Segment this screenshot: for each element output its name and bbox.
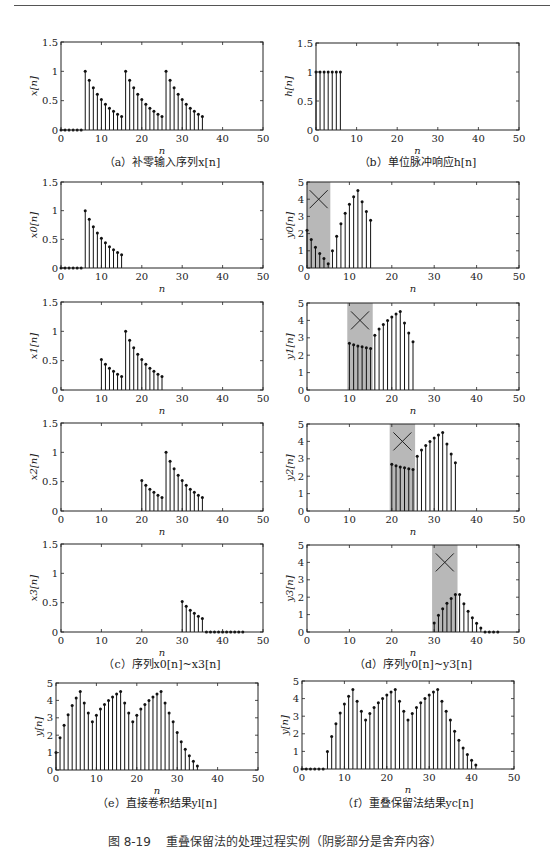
svg-text:x2[n]: x2[n]: [28, 454, 39, 480]
stems: [60, 209, 124, 269]
svg-text:30: 30: [431, 133, 444, 144]
svg-text:30: 30: [176, 271, 189, 282]
stems: [181, 600, 245, 634]
svg-text:50: 50: [257, 393, 270, 404]
svg-text:30: 30: [428, 635, 441, 646]
svg-text:3: 3: [298, 332, 304, 343]
svg-text:3: 3: [298, 453, 304, 464]
svg-text:2: 2: [293, 728, 299, 739]
svg-text:20: 20: [385, 635, 398, 646]
svg-text:1.5: 1.5: [42, 418, 58, 429]
svg-text:1: 1: [298, 367, 304, 378]
svg-text:1.5: 1.5: [42, 539, 58, 550]
svg-text:0.5: 0.5: [42, 476, 58, 487]
svg-text:40: 40: [211, 773, 224, 784]
discard-region: [432, 545, 457, 632]
svg-text:x[n]: x[n]: [28, 76, 39, 96]
caption-e: （e）直接卷积结果yl[n]: [56, 794, 258, 810]
svg-text:0: 0: [299, 772, 305, 783]
svg-text:4: 4: [298, 557, 304, 568]
svg-text:20: 20: [130, 773, 143, 784]
svg-text:30: 30: [176, 635, 189, 646]
svg-text:40: 40: [472, 133, 485, 144]
stem-plot-e: 01020304050012345ny[n]: [56, 683, 258, 770]
svg-text:0.5: 0.5: [42, 234, 58, 245]
svg-text:10: 10: [343, 514, 356, 525]
svg-text:50: 50: [513, 393, 526, 404]
caption-d: （d）序列y0[n]~y3[n]: [307, 655, 519, 671]
figure-caption: 图 8-19 重叠保留法的处理过程实例（阴影部分是舍弃内容）: [0, 832, 550, 849]
svg-text:40: 40: [216, 514, 229, 525]
stem-plot-y1: 01020304050012345ny1[n]: [307, 303, 519, 390]
svg-text:30: 30: [176, 133, 189, 144]
svg-text:0.5: 0.5: [42, 597, 58, 608]
svg-text:n: n: [410, 526, 416, 537]
svg-text:0: 0: [58, 635, 64, 646]
svg-text:50: 50: [513, 271, 526, 282]
svg-text:y[n]: y[n]: [33, 716, 44, 737]
svg-text:y0[n]: y0[n]: [284, 212, 295, 239]
svg-text:0.5: 0.5: [42, 95, 58, 106]
svg-text:h[n]: h[n]: [283, 76, 294, 97]
axes-frame: [307, 545, 519, 632]
svg-text:50: 50: [257, 271, 270, 282]
stems: [100, 330, 164, 390]
svg-text:30: 30: [428, 271, 441, 282]
svg-text:4: 4: [298, 194, 304, 205]
svg-text:20: 20: [135, 514, 148, 525]
svg-text:1.5: 1.5: [42, 37, 58, 48]
svg-text:20: 20: [385, 393, 398, 404]
svg-text:40: 40: [470, 393, 483, 404]
svg-text:2: 2: [298, 592, 304, 603]
svg-text:0: 0: [304, 635, 310, 646]
axes-frame: [307, 182, 519, 268]
svg-text:40: 40: [216, 271, 229, 282]
axes-frame: [61, 544, 263, 632]
svg-text:y3[n]: y3[n]: [284, 575, 295, 602]
svg-text:x0[n]: x0[n]: [28, 212, 39, 238]
svg-text:n: n: [159, 405, 165, 416]
svg-text:20: 20: [135, 133, 148, 144]
svg-text:0: 0: [52, 125, 58, 136]
svg-text:2: 2: [47, 730, 53, 741]
svg-text:4: 4: [293, 693, 299, 704]
svg-text:10: 10: [95, 635, 108, 646]
caption-f: （f）重叠保留法结果yc[n]: [302, 794, 514, 810]
svg-text:0: 0: [293, 764, 299, 775]
svg-text:10: 10: [343, 393, 356, 404]
svg-text:0: 0: [52, 627, 58, 638]
svg-text:0: 0: [52, 506, 58, 517]
svg-text:1: 1: [307, 67, 313, 78]
stem-plot-f: 01020304050012345ny[n]: [302, 681, 514, 769]
svg-text:10: 10: [95, 271, 108, 282]
svg-text:0: 0: [58, 271, 64, 282]
stems: [315, 71, 342, 131]
svg-text:10: 10: [90, 773, 103, 784]
svg-text:0: 0: [298, 627, 304, 638]
svg-text:4: 4: [298, 315, 304, 326]
svg-text:50: 50: [252, 773, 265, 784]
svg-text:0.5: 0.5: [42, 355, 58, 366]
svg-text:30: 30: [423, 772, 436, 783]
svg-text:1: 1: [52, 568, 58, 579]
svg-text:10: 10: [343, 635, 356, 646]
svg-text:1: 1: [298, 609, 304, 620]
svg-text:40: 40: [470, 271, 483, 282]
svg-text:5: 5: [293, 676, 299, 687]
discard-region: [347, 303, 372, 390]
discard-region: [390, 424, 415, 511]
svg-text:40: 40: [216, 393, 229, 404]
svg-text:50: 50: [257, 514, 270, 525]
stems: [55, 690, 199, 770]
svg-text:4: 4: [47, 695, 53, 706]
svg-text:40: 40: [470, 514, 483, 525]
svg-text:n: n: [410, 283, 416, 294]
svg-text:50: 50: [508, 772, 521, 783]
svg-text:y[n]: y[n]: [279, 715, 290, 736]
svg-text:0: 0: [52, 263, 58, 274]
svg-text:40: 40: [216, 133, 229, 144]
svg-text:0: 0: [298, 506, 304, 517]
svg-text:1.5: 1.5: [42, 177, 58, 188]
svg-text:30: 30: [428, 514, 441, 525]
svg-text:y1[n]: y1[n]: [284, 333, 295, 360]
